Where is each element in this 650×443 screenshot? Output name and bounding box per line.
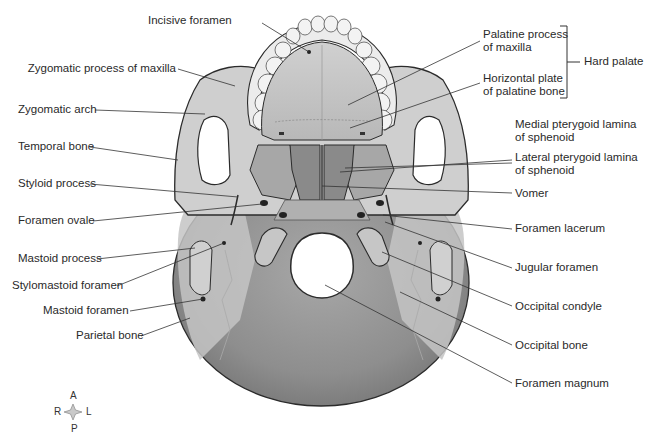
label-stylomastoid-foramen: Stylomastoid foramen <box>12 279 123 292</box>
label-parietal-bone: Parietal bone <box>76 329 144 342</box>
compass-posterior: P <box>71 423 78 434</box>
label-lateral-pterygoid-lamina: Lateral pterygoid lamina of sphenoid <box>515 151 638 177</box>
label-mastoid-foramen: Mastoid foramen <box>43 304 129 317</box>
skull-inferior-view-figure: Incisive foramen Zygomatic process of ma… <box>0 0 650 443</box>
label-vomer: Vomer <box>515 187 548 200</box>
foramen-magnum <box>291 233 353 298</box>
label-zygomatic-arch: Zygomatic arch <box>18 103 97 116</box>
label-styloid-process: Styloid process <box>18 177 96 190</box>
foramen-ovale-marker <box>260 200 268 206</box>
label-mastoid-process: Mastoid process <box>18 252 102 265</box>
label-foramen-ovale: Foramen ovale <box>18 214 95 227</box>
label-incisive-foramen: Incisive foramen <box>148 14 232 27</box>
label-zygomatic-process-of-maxilla: Zygomatic process of maxilla <box>28 62 176 75</box>
label-foramen-magnum: Foramen magnum <box>515 377 609 390</box>
orientation-compass-icon <box>64 404 82 420</box>
label-temporal-bone: Temporal bone <box>18 140 94 153</box>
label-hard-palate: Hard palate <box>584 55 643 68</box>
label-occipital-bone: Occipital bone <box>515 339 588 352</box>
label-foramen-lacerum: Foramen lacerum <box>515 222 605 235</box>
label-palatine-process-of-maxilla: Palatine process of maxilla <box>483 28 568 54</box>
compass-left: L <box>86 406 92 417</box>
label-jugular-foramen: Jugular foramen <box>515 261 598 274</box>
label-horizontal-plate-of-palatine-bone: Horizontal plate of palatine bone <box>483 72 565 98</box>
compass-anterior: A <box>70 390 77 401</box>
label-occipital-condyle: Occipital condyle <box>515 300 602 313</box>
compass-right: R <box>54 406 61 417</box>
label-medial-pterygoid-lamina: Medial pterygoid lamina of sphenoid <box>515 118 636 144</box>
